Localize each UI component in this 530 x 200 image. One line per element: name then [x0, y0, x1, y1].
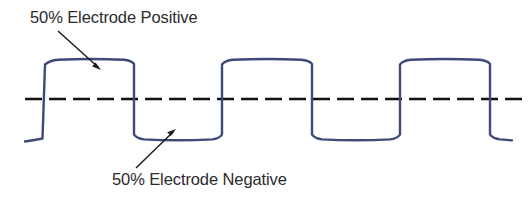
positive-polarity-label: 50% Electrode Positive: [30, 9, 197, 26]
waveform-diagram: 50% Electrode Positive 50% Electrode Neg…: [0, 0, 530, 200]
positive-annotation-arrow: [58, 31, 101, 70]
negative-polarity-label: 50% Electrode Negative: [112, 171, 287, 188]
negative-annotation-arrow: [136, 129, 176, 168]
